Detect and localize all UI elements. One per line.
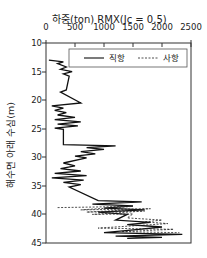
legend: 직항 사항	[69, 49, 187, 67]
legend-dashed-label: 사항	[163, 53, 179, 63]
plot-area: 직항 사항	[0, 0, 207, 258]
series-batter-pile	[58, 206, 180, 232]
legend-solid-label: 직항	[109, 53, 125, 63]
series-straight-pile	[49, 60, 182, 238]
